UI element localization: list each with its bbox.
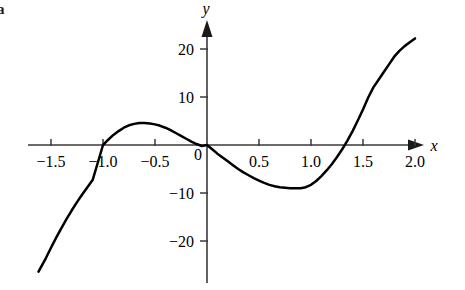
y-tick-label: −20 [169, 233, 194, 250]
y-tick-label: 10 [178, 89, 194, 106]
y-axis-label: y [200, 0, 210, 18]
figure-panel: a −1.5−1.0−0.500.51.01.52.0 2010−10−20 x… [0, 0, 465, 290]
x-axis-group [28, 139, 424, 151]
y-tick-label: −10 [169, 185, 194, 202]
x-axis-arrowhead [408, 140, 424, 151]
x-tick-label: −0.5 [140, 153, 169, 170]
x-tick-label: 1.0 [301, 153, 321, 170]
x-axis-tick-labels: −1.5−1.0−0.500.51.01.52.0 [36, 146, 425, 170]
x-tick-label: −1.5 [36, 153, 65, 170]
y-axis-arrowhead [202, 20, 213, 37]
y-tick-label: 20 [178, 41, 194, 58]
x-tick-label: −1.0 [88, 153, 117, 170]
x-tick-label: 1.5 [353, 153, 373, 170]
x-axis-label: x [429, 137, 437, 154]
x-tick-label: 0 [194, 146, 202, 163]
cubic-function-plot: −1.5−1.0−0.500.51.01.52.0 2010−10−20 x y [0, 0, 465, 290]
x-tick-label: 2.0 [405, 153, 425, 170]
x-tick-label: 0.5 [249, 153, 269, 170]
